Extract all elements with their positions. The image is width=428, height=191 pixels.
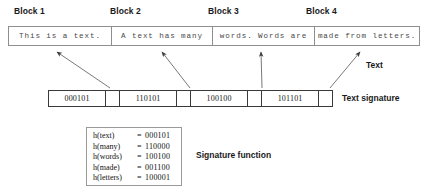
text-block-4: made from letters.	[314, 27, 419, 45]
signature-function-key: h(text)	[93, 131, 137, 142]
signature-function-value: 100001	[145, 173, 170, 184]
signature-function-equals: =	[137, 131, 145, 142]
signature-function-value: 110000	[145, 142, 170, 153]
signature-function-entry: h(words) = 100100	[93, 152, 176, 163]
signature-function-box: h(text) = 000101 h(many) = 110000 h(word…	[86, 127, 182, 186]
signature-function-key: h(letters)	[93, 173, 137, 184]
signature-diagram: Block 1 Block 2 Block 3 Block 4 This is …	[0, 0, 428, 191]
text-block-3: words. Words are	[212, 27, 314, 45]
signature-function-equals: =	[137, 142, 145, 153]
signature-function-value: 000101	[145, 131, 170, 142]
text-signature-row: 000101 110101 100100 101101	[48, 90, 333, 107]
signature-function-key: h(made)	[93, 163, 137, 174]
block-label-2: Block 2	[110, 6, 141, 16]
signature-function-entry: h(text) = 000101	[93, 131, 176, 142]
text-block-2: A text has many	[111, 27, 212, 45]
signature-function-key: h(many)	[93, 142, 137, 153]
caption-text: Text	[366, 60, 383, 70]
text-row: This is a text. A text has many words. W…	[8, 26, 420, 46]
signature-function-entry: h(many) = 110000	[93, 142, 176, 153]
arrow-block-1	[57, 52, 110, 88]
signature-function-equals: =	[137, 173, 145, 184]
arrow-block-4	[330, 52, 360, 88]
signature-separator-1	[105, 91, 119, 106]
signature-function-equals: =	[137, 152, 145, 163]
signature-value-3: 100100	[190, 91, 247, 106]
signature-function-entry: h(letters) = 100001	[93, 173, 176, 184]
signature-function-value: 001100	[145, 163, 170, 174]
signature-function-key: h(words)	[93, 152, 137, 163]
caption-signature-function: Signature function	[196, 150, 271, 160]
block-label-1: Block 1	[14, 6, 45, 16]
signature-separator-3	[247, 91, 261, 106]
block-label-4: Block 4	[306, 6, 337, 16]
signature-function-equals: =	[137, 163, 145, 174]
signature-value-1: 000101	[49, 91, 105, 106]
text-block-1: This is a text.	[9, 27, 111, 45]
block-label-3: Block 3	[208, 6, 239, 16]
arrow-block-2	[162, 52, 190, 88]
signature-separator-2	[176, 91, 190, 106]
caption-text-signature: Text signature	[342, 93, 399, 103]
signature-function-value: 100100	[145, 152, 170, 163]
signature-function-entry: h(made) = 001100	[93, 163, 176, 174]
arrow-block-3	[261, 52, 262, 88]
signature-separator-4	[318, 91, 332, 106]
signature-value-2: 110101	[119, 91, 176, 106]
signature-value-4: 101101	[261, 91, 318, 106]
